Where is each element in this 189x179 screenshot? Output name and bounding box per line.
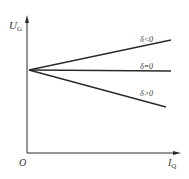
label-delta-zero: δ=0 xyxy=(140,62,153,71)
y-axis-label: UG xyxy=(9,19,22,33)
y-axis-arrow-icon xyxy=(25,15,29,23)
x-axis-arrow-icon xyxy=(173,151,181,155)
label-delta-positive: δ>0 xyxy=(140,89,153,98)
origin-label: O xyxy=(19,157,26,168)
label-delta-negative: δ<0 xyxy=(140,35,153,44)
x-axis-label: IQ xyxy=(167,157,176,170)
characteristic-diagram: UG O IQ δ<0 δ=0 δ>0 xyxy=(0,0,189,179)
